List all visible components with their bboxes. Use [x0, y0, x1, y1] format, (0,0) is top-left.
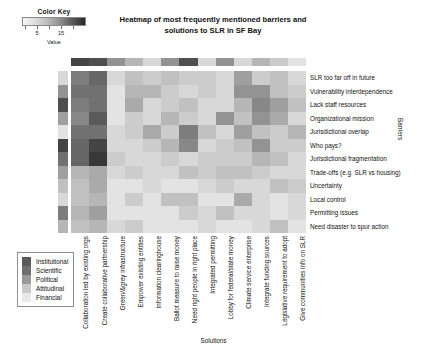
heatmap-cell: [270, 220, 288, 234]
heatmap-cell: [252, 206, 270, 220]
heatmap-cell: [288, 71, 306, 85]
heatmap-cell: [89, 125, 107, 139]
heatmap-cell: [125, 220, 143, 234]
heatmap-cell: [179, 98, 197, 112]
heatmap-cell: [216, 179, 234, 193]
heatmap-cell: [234, 112, 252, 126]
legend-label: Attitudinal: [36, 285, 64, 292]
heatmap-cell: [71, 193, 89, 207]
legend-swatch: [22, 293, 31, 302]
heatmap-cell: [89, 206, 107, 220]
heatmap-cell: [107, 152, 125, 166]
color-key-axis-label: Value: [18, 39, 90, 45]
row-label: Need disaster to spur action: [310, 220, 402, 234]
heatmap-cell: [89, 179, 107, 193]
legend-item: Institutional: [22, 257, 68, 266]
heatmap-cell: [179, 206, 197, 220]
color-key-tick-labels: 5 15: [23, 30, 85, 38]
heatmap-cell: [270, 206, 288, 220]
heatmap-cell: [143, 166, 161, 180]
legend-item: Scientific: [22, 266, 68, 275]
column-annotation-cell: [216, 58, 234, 66]
column-label-slot: Empower existing entities: [125, 236, 143, 334]
heatmap-cell: [198, 220, 216, 234]
legend-label: Institutional: [36, 258, 68, 265]
heatmap-cell: [89, 220, 107, 234]
column-annotation-cell: [288, 58, 306, 66]
heatmap-cell: [179, 193, 197, 207]
row-annotation-cell: [58, 152, 68, 166]
page-title: Heatmap of most frequently mentioned bar…: [104, 14, 322, 36]
heatmap-cell: [143, 139, 161, 153]
heatmap-cell: [89, 85, 107, 99]
heatmap-cell: [216, 112, 234, 126]
heatmap-cell: [143, 98, 161, 112]
heatmap-cell: [288, 85, 306, 99]
heatmap-cell: [234, 85, 252, 99]
heatmap-cell: [71, 85, 89, 99]
heatmap-cell: [161, 125, 179, 139]
heatmap-cell: [288, 179, 306, 193]
heatmap-cell: [71, 71, 89, 85]
heatmap-cell: [288, 166, 306, 180]
y-axis-title: Barriers: [397, 118, 404, 140]
row-annotation-cell: [58, 112, 68, 126]
heatmap-cell: [270, 85, 288, 99]
heatmap-cell: [270, 193, 288, 207]
column-label: Give communities info on SLR: [299, 236, 306, 321]
heatmap-cell: [198, 125, 216, 139]
heatmap-cell: [216, 166, 234, 180]
heatmap-cell: [89, 193, 107, 207]
heatmap-cell: [179, 220, 197, 234]
heatmap-cell: [179, 152, 197, 166]
heatmap-cell: [125, 179, 143, 193]
heatmap-cell: [89, 139, 107, 153]
heatmap-cell: [143, 220, 161, 234]
column-label-slot: Lobby for federal/state money: [216, 236, 234, 334]
row-annotation-bar: [58, 71, 68, 233]
category-legend: InstitutionalScientificPoliticalAttitudi…: [17, 252, 74, 307]
legend-item: Political: [22, 275, 68, 284]
heatmap-cell: [234, 125, 252, 139]
heatmap-cell: [179, 125, 197, 139]
heatmap-cell: [71, 125, 89, 139]
row-label: Organizational mission: [310, 112, 402, 126]
heatmap-cell: [107, 112, 125, 126]
column-annotation-cell: [179, 58, 197, 66]
heatmap-cell: [234, 71, 252, 85]
heatmap-cell: [270, 152, 288, 166]
heatmap-cell: [252, 139, 270, 153]
column-annotation-cell: [234, 58, 252, 66]
heatmap-cell: [89, 98, 107, 112]
heatmap-cell: [71, 166, 89, 180]
heatmap-cell: [216, 206, 234, 220]
heatmap-cell: [252, 71, 270, 85]
heatmap-cell: [270, 112, 288, 126]
color-key-gradient: [22, 17, 86, 26]
heatmap-cell: [89, 112, 107, 126]
heatmap-cell: [234, 179, 252, 193]
heatmap-cell: [107, 206, 125, 220]
heatmap-cell: [216, 71, 234, 85]
legend-label: Scientific: [36, 267, 62, 274]
heatmap-cell: [161, 179, 179, 193]
column-annotation-cell: [161, 58, 179, 66]
column-annotation-cell: [252, 58, 270, 66]
heatmap-cell: [125, 152, 143, 166]
heatmap-cell: [161, 139, 179, 153]
heatmap-cell: [252, 193, 270, 207]
color-key-title: Color Key: [18, 8, 90, 15]
heatmap-cell: [143, 179, 161, 193]
column-label-slot: Create collaborative partnership: [89, 236, 107, 334]
row-label: Local control: [310, 193, 402, 207]
heatmap-cell: [89, 152, 107, 166]
heatmap-cell: [125, 193, 143, 207]
heatmap-cell: [161, 206, 179, 220]
heatmap-cell: [198, 85, 216, 99]
heatmap-cell: [216, 152, 234, 166]
heatmap-cell: [288, 206, 306, 220]
column-label-slot: Green/&grey infrastructure: [107, 236, 125, 334]
column-annotation-cell: [71, 58, 89, 66]
heatmap-cell: [216, 125, 234, 139]
heatmap-cell: [125, 166, 143, 180]
